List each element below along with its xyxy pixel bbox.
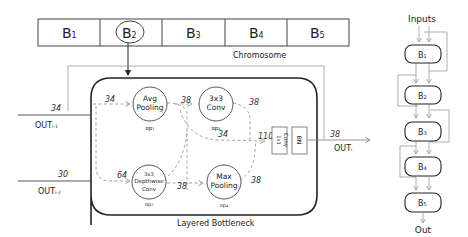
inputs-label: Inputs bbox=[408, 14, 436, 24]
batchnorm-box[interactable]: BN bbox=[292, 127, 307, 154]
chromosome-label: Chromosome bbox=[233, 51, 286, 60]
svg-text:3x3: 3x3 bbox=[209, 94, 223, 103]
svg-text:Avg: Avg bbox=[143, 94, 157, 103]
svg-text:B3: B3 bbox=[418, 128, 427, 137]
svg-text:Conv: Conv bbox=[283, 133, 289, 148]
svg-text:op2: op2 bbox=[145, 201, 153, 208]
svg-text:op1: op1 bbox=[145, 125, 154, 132]
svg-text:B2: B2 bbox=[418, 92, 427, 101]
chromosome: B1 B2 B3 B4 B5 Chromosome bbox=[38, 19, 349, 60]
network-block-b1[interactable]: B1 bbox=[405, 45, 441, 63]
svg-text:OUTi-1: OUTi-1 bbox=[35, 121, 58, 130]
network-chain: Inputs B1 bbox=[398, 14, 449, 235]
network-block-b2[interactable]: B2 bbox=[405, 86, 441, 104]
svg-text:OUTi: OUTi bbox=[334, 144, 352, 153]
edge-label: 64 bbox=[117, 171, 127, 180]
svg-text:op3: op3 bbox=[211, 125, 220, 132]
edge-label: 110 bbox=[258, 132, 273, 141]
op3-3x3-conv[interactable]: 3x3 Conv op3 bbox=[199, 87, 233, 132]
op1-avg-pooling[interactable]: Avg Pooling op1 bbox=[133, 87, 167, 132]
svg-text:Pooling: Pooling bbox=[136, 103, 163, 112]
edge-label: 38 bbox=[249, 98, 259, 107]
op4-max-pooling[interactable]: Max Pooling op4 bbox=[207, 165, 241, 209]
network-block-b4[interactable]: B4 bbox=[405, 157, 441, 176]
svg-text:Depthwise: Depthwise bbox=[134, 178, 164, 185]
svg-text:3x3: 3x3 bbox=[144, 171, 153, 177]
out-label: Out bbox=[415, 225, 432, 235]
svg-text:op4: op4 bbox=[220, 202, 229, 209]
edge-label: 38 bbox=[181, 96, 191, 105]
svg-text:Conv: Conv bbox=[142, 186, 157, 192]
svg-text:OUTi-2: OUTi-2 bbox=[38, 187, 61, 196]
diagram-canvas: B1 B2 B3 B4 B5 Chromosome Layered Bottle… bbox=[0, 0, 468, 237]
edge-label: 38 bbox=[251, 176, 261, 185]
svg-text:34: 34 bbox=[51, 104, 61, 113]
input-out-i-2: 30 OUTi-2 bbox=[18, 170, 91, 196]
svg-text:Max: Max bbox=[216, 172, 232, 181]
network-block-b5[interactable]: B5 bbox=[405, 193, 441, 212]
svg-text:Pooling: Pooling bbox=[210, 181, 237, 190]
input-out-i-1: 34 OUTi-1 bbox=[18, 104, 91, 130]
bottleneck-label: Layered Bottleneck bbox=[177, 219, 255, 228]
op2-3x3-depthwise-conv[interactable]: 3x3 Depthwise Conv op2 bbox=[132, 165, 166, 208]
edge-label: 38 bbox=[177, 182, 187, 191]
conv1x1-box[interactable]: 1x1 Conv bbox=[272, 127, 289, 154]
svg-text:B4: B4 bbox=[418, 163, 427, 172]
svg-text:B5: B5 bbox=[418, 199, 427, 208]
edge-label: 34 bbox=[105, 95, 115, 104]
svg-text:Conv: Conv bbox=[206, 103, 226, 112]
svg-text:1x1: 1x1 bbox=[276, 135, 282, 144]
svg-text:B1: B1 bbox=[418, 51, 427, 60]
svg-text:38: 38 bbox=[330, 130, 340, 139]
svg-text:BN: BN bbox=[296, 136, 303, 145]
network-block-b3[interactable]: B3 bbox=[405, 122, 441, 141]
svg-text:30: 30 bbox=[58, 170, 68, 179]
edge-label: 34 bbox=[218, 130, 228, 139]
